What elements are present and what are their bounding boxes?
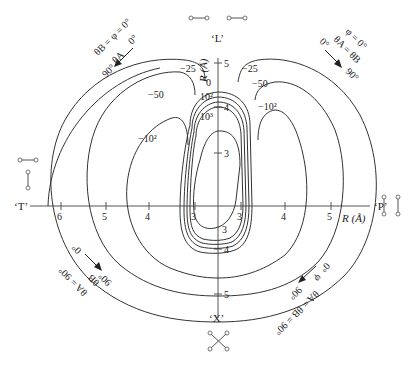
annotation-bottom-right: θA = θB = 90° φ 0° 90° xyxy=(272,261,332,338)
horizontal-axis-title: R (Å) xyxy=(341,212,366,225)
molecule-icon-linear xyxy=(189,16,247,20)
contour-label: 0 xyxy=(206,77,211,88)
molecule-icon-crossed xyxy=(208,331,229,351)
axis-label-T: ‘T’ xyxy=(14,200,28,212)
svg-text:0°: 0° xyxy=(126,32,140,46)
molecule-icon-t-shaped xyxy=(18,158,38,190)
tick-label: 4 xyxy=(224,102,229,113)
tick-label: 4 xyxy=(145,211,150,222)
axis-label-P: ‘P’ xyxy=(374,200,387,212)
tick-label: 3 xyxy=(237,211,242,222)
svg-text:φ: φ xyxy=(312,273,324,285)
contour-diagram: ‘L’ ‘T’ ‘P’ ‘X’ R (Å) R (Å) 6 5 4 3 3 4 … xyxy=(0,0,415,367)
contour-label: −10² xyxy=(138,133,157,144)
contour-label: −25 xyxy=(180,63,196,74)
annotation-bottom-left: θA = 90° θB 0° 90° xyxy=(56,242,113,298)
svg-text:0°: 0° xyxy=(69,242,83,256)
tick-label: 3 xyxy=(222,224,227,235)
svg-text:90°: 90° xyxy=(287,285,305,303)
contour-minus-50 xyxy=(87,72,343,296)
svg-text:90°: 90° xyxy=(344,66,362,84)
svg-text:90°: 90° xyxy=(100,62,118,80)
tick-label: 4 xyxy=(224,244,229,255)
arrow-icon xyxy=(94,262,102,271)
annotation-top-right: φ = 0° θA = θB 0° 90° xyxy=(318,26,370,84)
contour-label: −50 xyxy=(252,78,268,89)
contour-label: −10² xyxy=(258,101,277,112)
contour-label: −25 xyxy=(242,63,258,74)
contour-label: −50 xyxy=(148,89,164,100)
svg-text:0°: 0° xyxy=(318,261,332,275)
tick-label: 5 xyxy=(327,211,332,222)
tick-label: 3 xyxy=(224,148,229,159)
inner-contours xyxy=(180,92,252,253)
tick-label: 5 xyxy=(102,211,107,222)
contour-label: 10² xyxy=(200,91,213,102)
svg-text:90°: 90° xyxy=(96,271,114,289)
svg-text:θA = 90°: θA = 90° xyxy=(56,265,89,298)
svg-text:0°: 0° xyxy=(318,36,332,50)
tick-label: 5 xyxy=(224,58,229,69)
axis-label-L: ‘L’ xyxy=(211,32,224,44)
axis-label-X: ‘X’ xyxy=(209,312,224,324)
tick-label: 6 xyxy=(57,211,62,222)
tick-label: 5 xyxy=(224,289,229,300)
annotation-top-left: θB = φ = 0° θA 0° 90° xyxy=(92,16,140,79)
contour-label: 10³ xyxy=(200,111,213,122)
tick-label: 3 xyxy=(191,211,196,222)
tick-label: 4 xyxy=(281,211,286,222)
